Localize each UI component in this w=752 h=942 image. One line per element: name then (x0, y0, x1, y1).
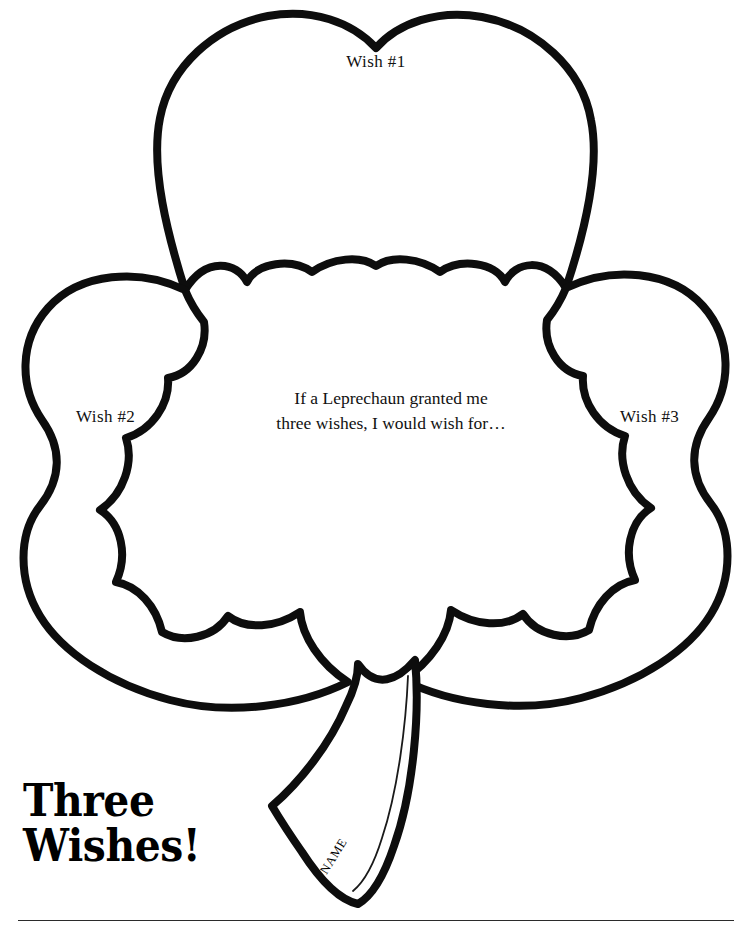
footer-note (18, 931, 734, 942)
footer-divider (18, 920, 734, 921)
wish-2-label: Wish #2 (76, 407, 135, 427)
page-title: Three Wishes! (23, 778, 200, 869)
prompt-text: If a Leprechaun granted me three wishes,… (196, 386, 586, 436)
page-title-line-1: Three (23, 778, 200, 823)
page-title-line-2: Wishes! (23, 823, 200, 868)
wish-3-label: Wish #3 (620, 407, 679, 427)
shamrock-right-leaf (403, 274, 728, 705)
wish-1-label: Wish #1 (0, 52, 752, 72)
shamrock-left-leaf (24, 276, 349, 707)
prompt-line-2: three wishes, I would wish for… (196, 411, 586, 436)
prompt-line-1: If a Leprechaun granted me (196, 386, 586, 411)
worksheet-page: Wish #1 Wish #2 Wish #3 If a Leprechaun … (0, 0, 752, 942)
